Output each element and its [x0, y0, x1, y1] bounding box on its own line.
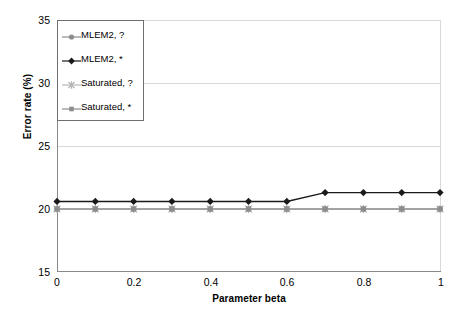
legend-label-0: MLEM2, ? [81, 29, 124, 41]
legend: MLEM2, ? MLEM2, * [57, 20, 144, 121]
series-1 [53, 189, 443, 205]
legend-marker-square-icon [62, 101, 81, 113]
legend-label-2: Saturated, ? [81, 77, 133, 89]
chart-figure: Error rate (%) Parameter beta 35 30 25 2… [0, 0, 451, 320]
legend-item-2[interactable]: Saturated, ? [62, 76, 133, 90]
legend-marker-circle-icon [62, 29, 81, 41]
legend-marker-star-icon [62, 77, 81, 89]
legend-item-3[interactable]: Saturated, * [62, 100, 131, 114]
legend-label-1: MLEM2, * [81, 53, 123, 65]
legend-item-1[interactable]: MLEM2, * [62, 52, 123, 66]
legend-marker-diamond-icon [62, 53, 81, 65]
series-3 [54, 206, 442, 211]
legend-label-3: Saturated, * [81, 101, 131, 113]
legend-item-0[interactable]: MLEM2, ? [62, 28, 124, 42]
